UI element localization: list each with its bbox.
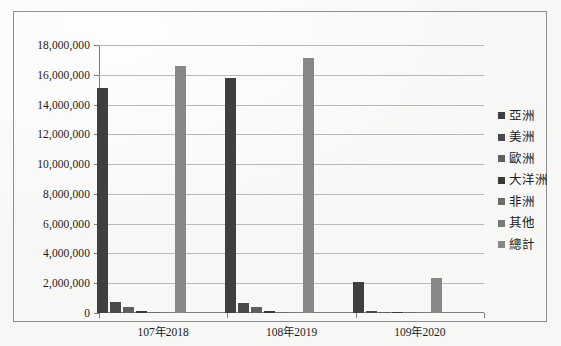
y-axis-label: 8,000,000 bbox=[43, 188, 90, 200]
y-axis-label: 12,000,000 bbox=[37, 128, 90, 140]
gridline bbox=[99, 194, 484, 195]
y-axis-label: 2,000,000 bbox=[43, 277, 90, 289]
bar-非洲-109年2020 bbox=[405, 312, 416, 313]
x-axis-tick bbox=[484, 313, 485, 318]
gridline bbox=[99, 253, 484, 254]
gridline bbox=[99, 224, 484, 225]
y-axis-label: 16,000,000 bbox=[37, 69, 90, 81]
gridline bbox=[99, 45, 484, 46]
bar-總計-108年2019 bbox=[303, 58, 314, 313]
x-axis-tick bbox=[227, 313, 228, 318]
bar-大洋洲-107年2018 bbox=[136, 311, 147, 313]
y-axis-label: 10,000,000 bbox=[37, 158, 90, 170]
legend-item-大洋洲[interactable]: 大洋洲 bbox=[498, 170, 554, 192]
legend-item-label: 歐洲 bbox=[509, 153, 535, 166]
legend-item-label: 總計 bbox=[509, 239, 535, 252]
legend-swatch-icon bbox=[498, 177, 505, 184]
legend-item-亞洲[interactable]: 亞洲 bbox=[498, 105, 554, 127]
legend-item-label: 非洲 bbox=[509, 196, 535, 209]
x-axis-tick bbox=[99, 313, 100, 318]
gridline bbox=[99, 164, 484, 165]
bar-總計-107年2018 bbox=[175, 66, 186, 313]
bar-美洲-108年2019 bbox=[238, 303, 249, 313]
y-axis-tick bbox=[94, 75, 99, 76]
bar-非洲-107年2018 bbox=[149, 312, 160, 313]
bar-美洲-109年2020 bbox=[366, 311, 377, 313]
legend-swatch-icon bbox=[498, 112, 505, 119]
x-axis-label: 109年2020 bbox=[394, 323, 445, 339]
bar-亞洲-108年2019 bbox=[225, 78, 236, 313]
chart-legend: 亞洲美洲歐洲大洋洲非洲其他總計 bbox=[498, 105, 554, 256]
bar-其他-107年2018 bbox=[162, 312, 173, 313]
legend-swatch-icon bbox=[498, 198, 505, 205]
bar-亞洲-107年2018 bbox=[97, 88, 108, 313]
bar-其他-109年2020 bbox=[418, 312, 429, 313]
bar-美洲-107年2018 bbox=[110, 302, 121, 313]
bar-歐洲-108年2019 bbox=[251, 307, 262, 313]
y-axis-label: 4,000,000 bbox=[43, 247, 90, 259]
x-axis-tick bbox=[356, 313, 357, 318]
bar-大洋洲-108年2019 bbox=[264, 311, 275, 313]
y-axis-tick bbox=[94, 45, 99, 46]
bar-非洲-108年2019 bbox=[277, 312, 288, 313]
legend-item-總計[interactable]: 總計 bbox=[498, 234, 554, 256]
legend-swatch-icon bbox=[498, 241, 505, 248]
legend-item-label: 美洲 bbox=[509, 131, 535, 144]
legend-item-非洲[interactable]: 非洲 bbox=[498, 191, 554, 213]
gridline bbox=[99, 283, 484, 284]
gridline bbox=[99, 105, 484, 106]
legend-item-歐洲[interactable]: 歐洲 bbox=[498, 148, 554, 170]
legend-swatch-icon bbox=[498, 155, 505, 162]
legend-item-label: 亞洲 bbox=[509, 110, 535, 123]
legend-item-美洲[interactable]: 美洲 bbox=[498, 127, 554, 149]
gridline bbox=[99, 134, 484, 135]
y-axis-label: 14,000,000 bbox=[37, 99, 90, 111]
legend-item-label: 其他 bbox=[509, 217, 535, 230]
y-axis-label: 18,000,000 bbox=[37, 39, 90, 51]
bar-總計-109年2020 bbox=[431, 278, 442, 313]
bar-亞洲-109年2020 bbox=[353, 282, 364, 313]
bar-歐洲-107年2018 bbox=[123, 307, 134, 313]
y-axis-label: 6,000,000 bbox=[43, 218, 90, 230]
legend-swatch-icon bbox=[498, 134, 505, 141]
gridline bbox=[99, 75, 484, 76]
plot-area: 18,000,00016,000,00014,000,00012,000,000… bbox=[99, 45, 484, 313]
bar-歐洲-109年2020 bbox=[379, 312, 390, 313]
legend-item-其他[interactable]: 其他 bbox=[498, 213, 554, 235]
x-axis-label: 107年2018 bbox=[138, 323, 189, 339]
y-axis-label: 0 bbox=[84, 307, 90, 319]
legend-swatch-icon bbox=[498, 220, 505, 227]
bar-大洋洲-109年2020 bbox=[392, 312, 403, 313]
legend-item-label: 大洋洲 bbox=[509, 174, 548, 187]
chart-frame: 18,000,00016,000,00014,000,00012,000,000… bbox=[13, 11, 547, 322]
bar-其他-108年2019 bbox=[290, 312, 301, 313]
x-axis-label: 108年2019 bbox=[266, 323, 317, 339]
